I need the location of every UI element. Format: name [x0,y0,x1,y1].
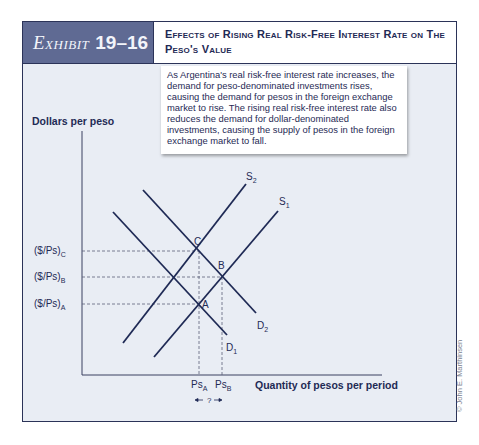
y-tick-c: ($/Ps)C [34,245,66,258]
guide-lines [82,251,222,375]
label-s2: S2 [246,171,257,184]
label-s1: S1 [279,196,290,209]
copyright-credit: © John E. Marthinsen [455,340,464,412]
supply-curve-s1 [154,211,278,357]
arrow-right-icon [219,399,222,402]
label-d2: D2 [257,320,268,333]
quantity-change-question: ? [207,396,212,405]
point-c-label: C [194,236,201,247]
label-d1: D1 [226,342,237,355]
y-tick-a: ($/Ps)A [34,298,66,311]
supply-curve-s2 [123,184,246,343]
x-axis-label: Quantity of pesos per period [255,379,398,391]
arrow-left-icon [195,399,198,402]
x-tick-b: PsB [215,379,232,392]
point-b-label: B [218,260,225,271]
y-axis-label: Dollars per peso [32,115,114,127]
y-tick-b: ($/Ps)B [34,271,66,284]
x-tick-a: PsA [191,379,208,392]
annotation-box: As Argentina's real risk-free interest r… [161,66,407,154]
point-a-label: A [202,299,209,310]
